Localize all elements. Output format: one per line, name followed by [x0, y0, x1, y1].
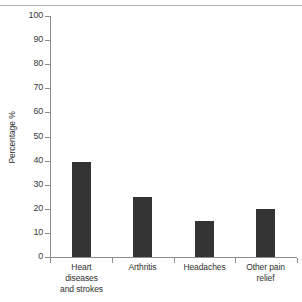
y-tick-label: 20	[3, 204, 43, 213]
bar-chart-figure: 0 10 20 30 40 50 60 70 80 90 100 Heart d…	[0, 0, 302, 302]
y-tick-mark	[45, 112, 50, 113]
bar-other-pain-relief	[256, 209, 275, 257]
x-category-label-other-pain-relief: Other pain relief	[226, 262, 302, 284]
y-tick-label: 90	[3, 35, 43, 44]
y-tick-mark	[45, 161, 50, 162]
y-tick-mark	[45, 40, 50, 41]
y-tick-mark	[45, 137, 50, 138]
bar-arthritis	[133, 197, 152, 257]
bar-heart-diseases-and-strokes	[72, 162, 91, 257]
y-tick-mark	[45, 88, 50, 89]
y-tick-mark	[45, 233, 50, 234]
y-tick-label: 10	[3, 228, 43, 237]
y-axis-title: Percentage %	[8, 88, 17, 188]
y-tick-label: 0	[3, 252, 43, 261]
bar-headaches	[195, 221, 214, 257]
y-axis-line	[50, 16, 51, 258]
y-tick-mark	[45, 185, 50, 186]
y-tick-label: 80	[3, 59, 43, 68]
y-tick-mark	[45, 64, 50, 65]
y-tick-label: 100	[3, 11, 43, 20]
y-tick-mark	[45, 209, 50, 210]
top-divider-rule	[0, 5, 302, 6]
y-tick-mark	[45, 16, 50, 17]
